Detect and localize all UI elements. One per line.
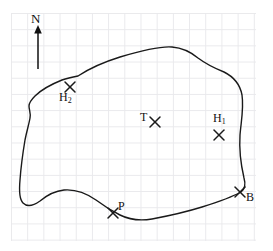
marker-label-t-text: T: [140, 110, 147, 124]
marker-label-b-text: B: [246, 190, 254, 204]
marker-label-h1-text: H: [213, 111, 222, 125]
marker-label-t: T: [140, 111, 147, 123]
marker-label-p: P: [118, 200, 125, 212]
marker-label-h1-subscript: 1: [222, 117, 226, 126]
marker-label-h2-subscript: 2: [68, 96, 72, 105]
marker-x-h1: [214, 130, 224, 140]
marker-label-b: B: [246, 191, 254, 203]
marker-label-h1: H1: [213, 112, 226, 126]
sketch-map-figure: N T H2 H1 P B: [0, 0, 273, 251]
region-boundary-path: [19, 47, 245, 220]
north-arrow-icon: [34, 25, 42, 69]
compass-north-label: N: [31, 12, 40, 25]
marker-label-h2-text: H: [59, 90, 68, 104]
marker-label-h2: H2: [59, 91, 72, 105]
marker-x-t: [150, 117, 160, 127]
marker-label-p-text: P: [118, 199, 125, 213]
figure-vector-layer: [0, 0, 273, 251]
marker-x-b: [235, 187, 245, 197]
